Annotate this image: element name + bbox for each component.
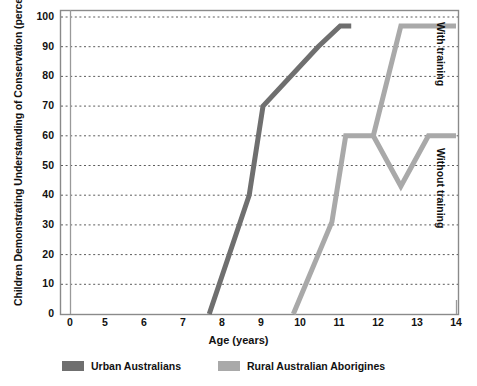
conservation-understanding-chart: Children Demonstrating Understanding of …	[0, 0, 477, 386]
legend-label-rural: Rural Australian Aborigines	[247, 360, 385, 372]
legend-item-rural: Rural Australian Aborigines	[218, 360, 385, 372]
plot-area	[0, 0, 477, 386]
data-series-layer	[209, 26, 456, 314]
annotation-with-training: With training	[435, 22, 447, 86]
plot-frame	[61, 11, 459, 315]
legend-swatch-rural	[218, 361, 240, 371]
legend-item-urban: Urban Australians	[62, 360, 181, 372]
series-line-0	[209, 26, 351, 314]
gridlines	[61, 17, 458, 284]
annotation-without-training: Without training	[435, 148, 447, 228]
legend-swatch-urban	[62, 361, 84, 371]
legend-label-urban: Urban Australians	[91, 360, 181, 372]
